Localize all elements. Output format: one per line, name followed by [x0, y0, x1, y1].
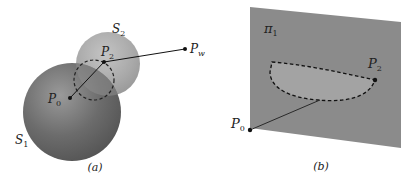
figure-b: π1 P2 P0 (b)	[230, 7, 401, 173]
point-p0-dot	[248, 128, 252, 132]
figure-a: S2 P2 Pw P0 S1 (a)	[15, 22, 205, 174]
caption-a: (a)	[87, 161, 102, 174]
label-s1: S1	[15, 133, 28, 149]
diagram-canvas: S2 P2 Pw P0 S1 (a) π1 P2 P0 (b)	[0, 0, 413, 184]
label-pw: Pw	[189, 42, 205, 58]
point-p2-dot	[102, 60, 106, 64]
point-pw-dot	[183, 47, 187, 51]
label-s2: S2	[112, 22, 125, 38]
label-p0: P0	[230, 116, 245, 133]
point-p2-dot	[373, 78, 377, 82]
caption-b: (b)	[313, 160, 329, 173]
point-p0-dot	[68, 96, 72, 100]
